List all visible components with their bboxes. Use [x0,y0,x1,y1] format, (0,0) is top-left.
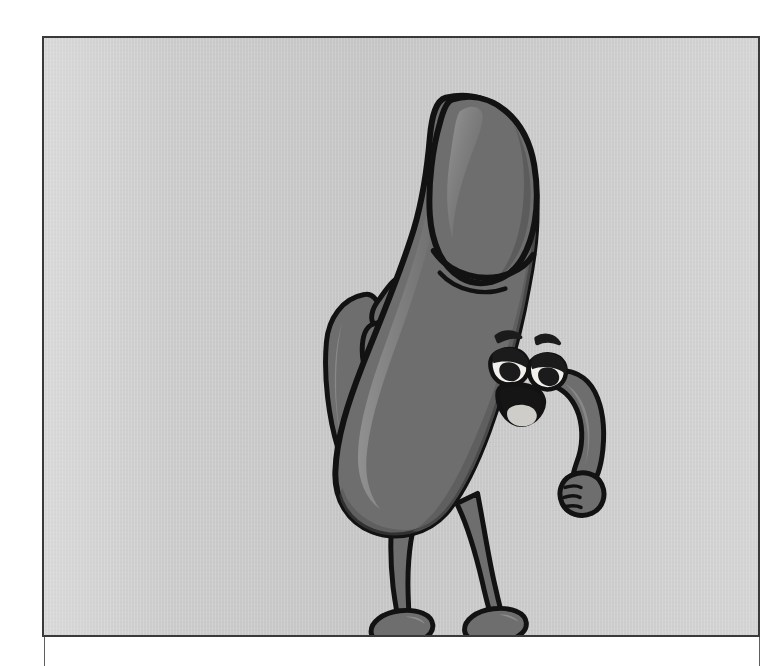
right-fist [560,473,604,516]
left-foot [371,610,433,635]
mouth [497,384,543,426]
head-tip [429,97,536,283]
right-leg [457,493,503,623]
left-eye [490,348,529,385]
page-canvas: Smiling elongated cartoon character with… [0,0,778,666]
illustration-panel: Smiling elongated cartoon character with… [42,36,760,637]
right-eyebrow [536,336,559,344]
cartoon-mascot-illustration: Smiling elongated cartoon character with… [44,38,758,636]
right-eye [529,353,567,390]
right-foot [465,608,527,635]
